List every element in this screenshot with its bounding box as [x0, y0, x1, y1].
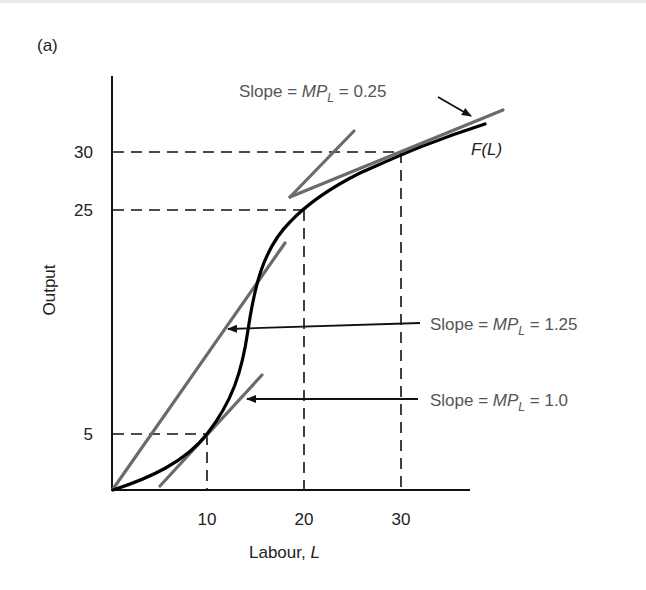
y-tick-5: 5	[84, 425, 93, 444]
panel-label: (a)	[37, 36, 58, 55]
arrow-to-tangent-0-25	[438, 97, 471, 116]
annotation-slope-0-25: Slope = MPL = 0.25	[239, 82, 387, 105]
ann-suffix: = 0.25	[334, 82, 386, 101]
y-tick-25: 25	[74, 201, 93, 220]
ann-prefix: Slope =	[430, 315, 493, 334]
arrow-to-tangent-1-25	[228, 323, 420, 329]
ann-suffix: = 1.0	[525, 391, 568, 410]
ann-prefix: Slope =	[430, 391, 493, 410]
production-function-chart: (a) 30 25 5 10 20 30 Output Labour, L F(…	[0, 0, 646, 590]
ann-mp: MP	[493, 315, 519, 334]
y-tick-30: 30	[74, 143, 93, 162]
x-axis-title: Labour, L	[249, 543, 320, 562]
ann-suffix: = 1.25	[525, 315, 577, 334]
annotation-slope-1-25: Slope = MPL = 1.25	[430, 315, 578, 338]
annotation-slope-1-0: Slope = MPL = 1.0	[430, 391, 568, 414]
ann-sub: L	[518, 324, 525, 338]
tangent-lines	[113, 110, 503, 489]
ann-prefix: Slope =	[239, 82, 302, 101]
x-tick-10: 10	[198, 510, 217, 529]
x-axis-title-var: L	[310, 543, 319, 562]
y-axis-title: Output	[40, 264, 59, 315]
reference-lines	[113, 152, 401, 490]
x-axis-title-text: Labour,	[249, 543, 310, 562]
tangent-steep-at-20	[290, 131, 354, 197]
x-tick-30: 30	[392, 510, 411, 529]
ann-sub: L	[327, 91, 334, 105]
curve-label-F-of-L: F(L)	[471, 140, 502, 159]
ann-sub: L	[518, 400, 525, 414]
ann-mp: MP	[302, 82, 328, 101]
ann-mp: MP	[493, 391, 519, 410]
production-curve-F-of-L	[113, 124, 485, 490]
x-tick-20: 20	[295, 510, 314, 529]
